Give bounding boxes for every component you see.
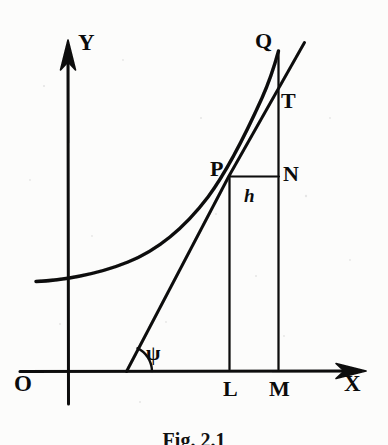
figure-caption: Fig. 2.1: [0, 429, 388, 445]
point-label-m: M: [269, 378, 290, 400]
y-axis-label: Y: [78, 31, 95, 54]
x-axis-label: X: [344, 372, 361, 395]
origin-label: O: [14, 372, 32, 395]
curve-path: [36, 51, 279, 282]
point-label-q: Q: [255, 30, 272, 52]
figure-container: Y X O Q T P N L M h ψ Fig. 2.1: [0, 0, 388, 445]
angle-psi-label: ψ: [146, 343, 160, 364]
point-label-p: P: [210, 158, 223, 180]
point-label-l: L: [223, 378, 238, 400]
point-label-t: T: [281, 90, 296, 112]
increment-h-label: h: [244, 186, 255, 205]
point-label-n: N: [283, 163, 299, 185]
x-axis: [20, 364, 366, 379]
diagram-canvas: [0, 0, 388, 445]
y-axis: [61, 40, 76, 404]
